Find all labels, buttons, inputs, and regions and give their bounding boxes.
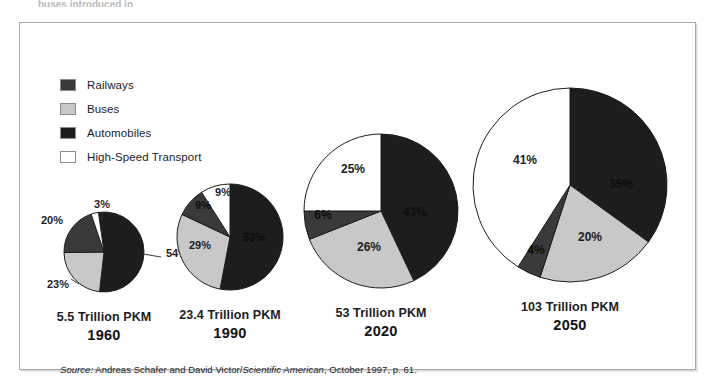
source-citation: Source: Andreas Schafer and David Victor… [60, 364, 417, 375]
slice-percent-label: 9% [195, 199, 211, 211]
legend-item-automobiles: Automobiles [60, 121, 280, 144]
pie-year-label: 2020 [281, 323, 481, 339]
pie-chart-figure: buses introduced in RailwaysBusesAutomob… [0, 0, 715, 388]
legend-swatch-icon [60, 79, 76, 91]
legend-swatch-icon [60, 127, 76, 139]
legend-item-buses: Buses [60, 97, 280, 120]
slice-percent-label: 9% [215, 186, 231, 198]
pie-year-label: 2050 [470, 317, 670, 333]
pie-chart-1990: 53%29%9%9% [161, 168, 299, 306]
slice-percent-label: 20% [41, 214, 63, 226]
pie-slice-buses [64, 252, 104, 292]
pie-total-label: 53 Trillion PKM [281, 306, 481, 320]
pie-chart-2050: 35%20%4%41% [457, 72, 683, 298]
slice-percent-label: 3% [94, 198, 110, 210]
source-authors: Andreas Schafer and David Victor/ [93, 364, 242, 375]
chart-frame: RailwaysBusesAutomobilesHigh-Speed Trans… [19, 22, 696, 370]
source-prefix: Source: [60, 364, 93, 375]
pie-caption-2050: 103 Trillion PKM2050 [470, 300, 670, 333]
pie-total-label: 103 Trillion PKM [470, 300, 670, 314]
slice-percent-label: 53% [243, 231, 265, 243]
slice-percent-label: 4% [527, 243, 545, 257]
slice-percent-label: 41% [513, 153, 537, 167]
slice-percent-label: 23% [47, 278, 69, 290]
slice-percent-label: 6% [314, 208, 332, 222]
pie-caption-2020: 53 Trillion PKM2020 [281, 306, 481, 339]
legend-item-label: Automobiles [87, 127, 151, 139]
slice-percent-label: 29% [189, 239, 211, 251]
slice-percent-label: 20% [578, 230, 602, 244]
cut-off-caption: buses introduced in [38, 0, 338, 7]
pie-chart-2020: 43%26%6%25% [288, 118, 474, 304]
legend-swatch-icon [60, 103, 76, 115]
slice-percent-label: 25% [341, 162, 365, 176]
pie-slice-automobiles [98, 212, 144, 292]
legend-item-label: Railways [87, 79, 134, 91]
source-suffix: , October 1997, p. 61. [324, 364, 417, 375]
slice-percent-label: 35% [609, 177, 633, 191]
slice-leader-line [143, 254, 161, 257]
source-publication: Scientific American [242, 364, 323, 375]
slice-percent-label: 43% [403, 205, 427, 219]
legend-item-label: Buses [87, 103, 119, 115]
legend-item-railways: Railways [60, 73, 280, 96]
slice-percent-label: 26% [357, 240, 381, 254]
